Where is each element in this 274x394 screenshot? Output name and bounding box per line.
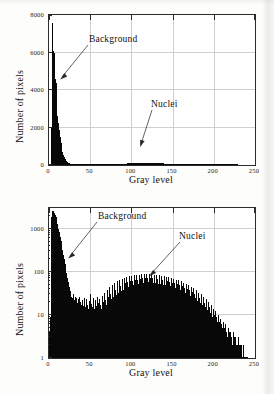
y-axis-title-log: Number of pixels: [14, 263, 25, 336]
x-tick-mark: [90, 208, 91, 213]
y-tick-mark: [48, 89, 52, 90]
x-tick-label: 100: [125, 167, 135, 174]
x-tick-mark: [214, 208, 215, 213]
annotation-nuclei-linear: Nuclei: [151, 99, 178, 109]
y-minor-tick-mark: [48, 275, 50, 276]
x-tick-mark: [173, 208, 174, 213]
histogram-bars-log: [49, 208, 255, 358]
y-tick-label: 10: [6, 310, 44, 317]
y-minor-tick-mark: [48, 241, 50, 242]
y-minor-tick-mark: [48, 301, 50, 302]
y-minor-tick-mark: [48, 321, 50, 322]
x-tick-mark: [90, 15, 91, 20]
x-tick-label: 150: [166, 360, 176, 367]
y-tick-mark: [48, 228, 52, 229]
x-tick-label: 100: [125, 360, 135, 367]
y-tick-mark: [48, 52, 52, 53]
y-minor-tick-mark: [48, 323, 50, 324]
x-tick-mark: [254, 15, 255, 20]
y-tick-label: 1: [6, 354, 44, 361]
y-minor-tick-mark: [48, 245, 50, 246]
y-minor-tick-mark: [48, 327, 50, 328]
x-tick-label: 200: [208, 360, 218, 367]
x-tick-mark: [49, 208, 50, 213]
x-tick-label: 0: [46, 167, 49, 174]
x-tick-mark: [173, 15, 174, 20]
annotation-background-log: Background: [98, 211, 146, 221]
plot-area-log: [48, 207, 256, 359]
y-tick-label: 4000: [6, 86, 44, 93]
y-minor-tick-mark: [48, 215, 50, 216]
x-axis-title-linear: Gray level: [48, 174, 254, 185]
histogram-figure-linear: 050100150200250 02000400060008000 Gray l…: [0, 0, 274, 197]
y-minor-tick-mark: [48, 336, 50, 337]
x-tick-label: 250: [249, 167, 259, 174]
y-tick-mark: [48, 314, 52, 315]
y-tick-label: 100: [6, 267, 44, 274]
y-minor-tick-mark: [48, 288, 50, 289]
y-tick-label: 6000: [6, 48, 44, 55]
y-minor-tick-mark: [48, 280, 50, 281]
y-tick-mark: [48, 271, 52, 272]
plot-area-linear: [48, 14, 256, 166]
y-tick-mark: [48, 127, 52, 128]
y-minor-tick-mark: [48, 293, 50, 294]
x-tick-mark: [214, 15, 215, 20]
y-tick-mark: [48, 357, 52, 358]
x-tick-label: 0: [46, 360, 49, 367]
x-tick-mark: [131, 15, 132, 20]
y-tick-label: 1000: [6, 224, 44, 231]
y-tick-label: 0: [6, 161, 44, 168]
y-minor-tick-mark: [48, 277, 50, 278]
x-axis-title-log: Gray level: [48, 367, 254, 378]
y-minor-tick-mark: [48, 284, 50, 285]
y-minor-tick-mark: [48, 316, 50, 317]
y-tick-mark: [48, 164, 52, 165]
x-tick-label: 150: [166, 167, 176, 174]
histogram-bar: [247, 357, 248, 358]
annotation-background-linear: Background: [89, 34, 137, 44]
y-minor-tick-mark: [48, 273, 50, 274]
y-minor-tick-mark: [48, 232, 50, 233]
histogram-bar: [243, 345, 244, 358]
x-tick-label: 50: [86, 167, 93, 174]
histogram-bars-linear: [49, 15, 255, 165]
y-minor-tick-mark: [48, 250, 50, 251]
annotation-nuclei-log: Nuclei: [179, 231, 206, 241]
y-minor-tick-mark: [48, 234, 50, 235]
y-minor-tick-mark: [48, 318, 50, 319]
x-tick-label: 250: [249, 360, 259, 367]
y-tick-label: 2000: [6, 123, 44, 130]
y-minor-tick-mark: [48, 230, 50, 231]
histogram-bar: [237, 164, 238, 165]
y-minor-tick-mark: [48, 344, 50, 345]
y-axis-title-linear: Number of pixels: [14, 70, 25, 143]
y-minor-tick-mark: [48, 237, 50, 238]
y-minor-tick-mark: [48, 331, 50, 332]
y-tick-mark: [48, 15, 52, 16]
y-tick-label: 8000: [6, 11, 44, 18]
x-tick-label: 200: [208, 167, 218, 174]
histogram-figure-log: 050100150200250 1101001000 Gray level Nu…: [0, 197, 274, 394]
x-tick-label: 50: [86, 360, 93, 367]
y-minor-tick-mark: [48, 258, 50, 259]
x-tick-mark: [254, 208, 255, 213]
